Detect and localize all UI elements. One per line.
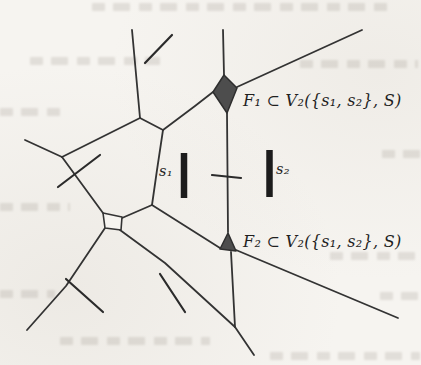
voronoi-edge [62, 118, 140, 157]
face-f1-label: F₁ ⊂ V₂({s₁, s₂}, S) [243, 91, 401, 110]
site-s1-label: s₁ [159, 163, 173, 179]
voronoi-edge [140, 118, 163, 130]
site-segment-tick [212, 175, 241, 178]
voronoi-edge [231, 252, 235, 327]
order2-voronoi-diagram [0, 0, 421, 365]
voronoi-edge [236, 250, 398, 318]
voronoi-edge [25, 140, 62, 157]
face-f1-shaded [213, 75, 237, 113]
site-segment [66, 279, 103, 312]
site-segment [160, 274, 185, 312]
voronoi-edge [62, 157, 103, 213]
voronoi-edge [227, 113, 228, 232]
site-segment [145, 35, 172, 63]
voronoi-edge [132, 30, 140, 118]
voronoi-edge [120, 230, 235, 327]
face-f2-shaded [220, 233, 236, 251]
voronoi-edge [152, 205, 220, 248]
site-s2-label: s₂ [276, 161, 290, 177]
voronoi-edge [122, 205, 152, 218]
voronoi-edge [235, 327, 254, 355]
voronoi-edge [237, 30, 362, 87]
voronoi-edge [163, 92, 213, 130]
small-quad-face [103, 213, 122, 230]
voronoi-edge [223, 30, 224, 75]
scanned-book-figure: F₁ ⊂ V₂({s₁, s₂}, S) F₂ ⊂ V₂({s₁, s₂}, S… [0, 0, 421, 365]
face-f2-label: F₂ ⊂ V₂({s₁, s₂}, S) [243, 232, 401, 251]
